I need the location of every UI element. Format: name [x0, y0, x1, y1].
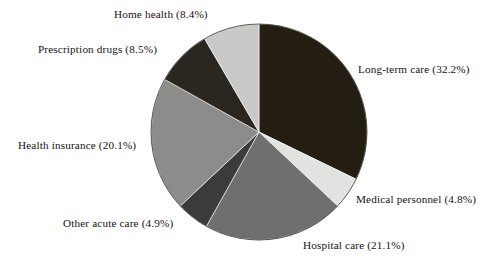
pie-label-hospital-care: Hospital care (21.1%)	[303, 239, 405, 252]
pie-label-other-acute-care: Other acute care (4.9%)	[63, 217, 173, 230]
pie-label-prescription-drugs: Prescription drugs (8.5%)	[38, 43, 157, 56]
pie-label-health-insurance: Health insurance (20.1%)	[18, 139, 136, 152]
pie-label-medical-personnel: Medical personnel (4.8%)	[356, 193, 476, 206]
pie-slice-group	[151, 24, 367, 240]
pie-label-long-term-care: Long-term care (32.2%)	[358, 63, 470, 76]
pie-label-home-health: Home health (8.4%)	[114, 8, 208, 21]
pie-chart-figure: Home health (8.4%) Prescription drugs (8…	[0, 0, 501, 266]
